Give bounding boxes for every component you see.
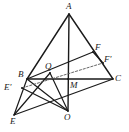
vertex-label-C: C (115, 74, 121, 83)
vertex-dot-M (67, 78, 69, 80)
vertex-label-E: E (10, 117, 16, 126)
vertex-dot-F (92, 51, 94, 53)
vertex-label-B: B (18, 70, 24, 79)
segment-F-Fp (93, 52, 103, 63)
segment-A-C (69, 14, 113, 79)
vertex-label-Q: Q (45, 62, 52, 71)
vertex-dot-E-prime (21, 87, 23, 89)
geometry-figure: AFF'BQE'CMEO (0, 0, 129, 132)
vertex-label-F: F (95, 43, 101, 52)
segment-B-F (27, 52, 93, 79)
vertex-label-O: O (64, 113, 71, 122)
vertex-label-E-prime: E' (4, 83, 11, 92)
vertex-label-M: M (70, 81, 78, 90)
vertex-dot-Q (49, 72, 51, 74)
segment-E-B (14, 79, 27, 115)
segment-O-Ep (22, 88, 68, 111)
vertex-label-A: A (66, 2, 72, 11)
vertex-label-F-prime: F' (104, 55, 111, 64)
segments-group (14, 14, 113, 115)
segment-O-B (27, 79, 68, 111)
